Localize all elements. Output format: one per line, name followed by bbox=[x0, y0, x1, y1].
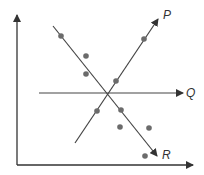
lines bbox=[39, 19, 183, 156]
data-point bbox=[83, 71, 89, 77]
data-point bbox=[113, 78, 119, 84]
line-r bbox=[53, 26, 157, 156]
data-point bbox=[118, 107, 124, 113]
label-q: Q bbox=[186, 86, 195, 100]
label-r: R bbox=[162, 148, 171, 162]
data-point bbox=[142, 153, 148, 159]
data-points bbox=[58, 33, 152, 159]
data-point bbox=[58, 33, 64, 39]
diagram-canvas: P Q R bbox=[0, 0, 204, 175]
data-point bbox=[141, 36, 147, 42]
diagram-svg: P Q R bbox=[0, 0, 204, 175]
data-point bbox=[83, 53, 89, 59]
data-point bbox=[94, 108, 100, 114]
axes bbox=[17, 15, 193, 165]
data-point bbox=[146, 125, 152, 131]
data-point bbox=[117, 124, 123, 130]
line-labels: P Q R bbox=[162, 8, 195, 162]
label-p: P bbox=[163, 8, 171, 22]
